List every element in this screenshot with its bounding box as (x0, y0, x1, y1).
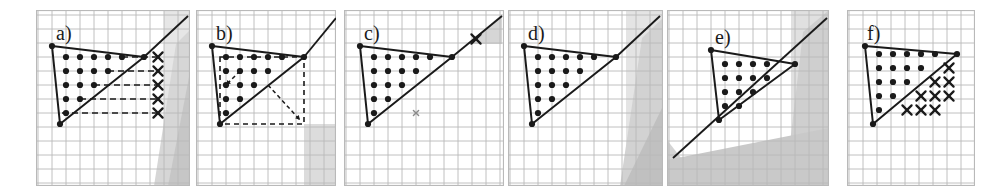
lattice-dot (279, 54, 285, 60)
lattice-dot (549, 96, 555, 102)
lattice-dot (876, 79, 882, 85)
lattice-dot (591, 54, 597, 60)
lattice-dot (63, 110, 69, 116)
lattice-dot (119, 54, 125, 60)
lattice-dot (105, 68, 111, 74)
lattice-dot (535, 68, 541, 74)
lattice-dot (237, 96, 243, 102)
triangle-vertex-0 (521, 43, 527, 49)
lattice-dot (371, 68, 377, 74)
triangle-vertex-1 (529, 121, 535, 127)
lattice-dot (764, 61, 770, 67)
lattice-dot (577, 68, 583, 74)
lattice-dot (77, 54, 83, 60)
lattice-dot (722, 61, 728, 67)
figure-canvas: a)b)c)d)e)f) (0, 0, 981, 196)
lattice-dot (385, 68, 391, 74)
lattice-dot (91, 68, 97, 74)
lattice-dot (904, 79, 910, 85)
lattice-dot (750, 89, 756, 95)
triangle-vertex-2 (613, 54, 619, 60)
lattice-dot (563, 68, 569, 74)
triangle-vertex-2 (301, 54, 307, 60)
lattice-dot (237, 68, 243, 74)
triangle-vertex-0 (209, 43, 215, 49)
lattice-dot (890, 79, 896, 85)
lattice-dot (722, 89, 728, 95)
lattice-dot (918, 65, 924, 71)
lattice-dot (549, 54, 555, 60)
lattice-dot (413, 68, 419, 74)
lattice-dot (77, 96, 83, 102)
lattice-dot (265, 54, 271, 60)
panel-e: e) (667, 10, 829, 186)
triangle-vertex-1 (716, 117, 722, 123)
lattice-dot (91, 82, 97, 88)
lattice-dot (63, 96, 69, 102)
lattice-dot (890, 65, 896, 71)
lattice-dot (563, 82, 569, 88)
panel-label-e: e) (715, 26, 731, 49)
lattice-dot (736, 103, 742, 109)
lattice-dot (223, 82, 229, 88)
lattice-dot (371, 82, 377, 88)
lattice-dot (91, 54, 97, 60)
lattice-dot (385, 54, 391, 60)
triangle-vertex-2 (141, 54, 147, 60)
lattice-dot (750, 61, 756, 67)
lattice-dot (371, 96, 377, 102)
panel-c: c) (344, 10, 504, 186)
lattice-dot (265, 68, 271, 74)
lattice-dot (77, 82, 83, 88)
lattice-dot (427, 54, 433, 60)
lattice-dot (223, 68, 229, 74)
lattice-dot (876, 107, 882, 113)
lattice-dot (750, 75, 756, 81)
lattice-dot (63, 54, 69, 60)
lattice-dot (932, 51, 938, 57)
lattice-dot (549, 68, 555, 74)
panel-label-a: a) (56, 22, 72, 45)
lattice-dot (722, 103, 728, 109)
lattice-dot (722, 75, 728, 81)
lattice-dot (251, 54, 257, 60)
lattice-dot (371, 110, 377, 116)
lattice-dot (890, 51, 896, 57)
lattice-dot (764, 75, 770, 81)
lattice-dot (577, 54, 583, 60)
shaded-regions (620, 10, 663, 186)
lattice-dot (918, 51, 924, 57)
panel-label-c: c) (364, 22, 380, 45)
lattice-dot (904, 65, 910, 71)
lattice-dot (63, 68, 69, 74)
lattice-dot (399, 82, 405, 88)
lattice-dot (549, 82, 555, 88)
lattice-dot (876, 93, 882, 99)
lattice-dot (890, 93, 896, 99)
lattice-dot (223, 54, 229, 60)
lattice-dot (251, 68, 257, 74)
panel-label-d: d) (528, 22, 545, 45)
triangle-vertex-0 (708, 47, 714, 53)
lattice-dot (385, 96, 391, 102)
lattice-dot (399, 54, 405, 60)
lattice-dot (535, 82, 541, 88)
lattice-dot (251, 82, 257, 88)
triangle-vertex-0 (49, 43, 55, 49)
lattice-dot (63, 82, 69, 88)
triangle-vertex-2 (954, 51, 960, 57)
lattice-dot (535, 96, 541, 102)
panel-f: f) (847, 10, 975, 186)
lattice-dot (736, 61, 742, 67)
lattice-dot (399, 68, 405, 74)
lattice-dot (223, 110, 229, 116)
lattice-dot (876, 65, 882, 71)
triangle-vertex-2 (792, 61, 798, 67)
panel-b: b) (196, 10, 336, 186)
panel-label-b: b) (216, 22, 233, 45)
lattice-dot (535, 110, 541, 116)
lattice-dot (736, 75, 742, 81)
lattice-dot (535, 54, 541, 60)
panel-a: a) (36, 10, 190, 186)
lattice-dot (223, 96, 229, 102)
